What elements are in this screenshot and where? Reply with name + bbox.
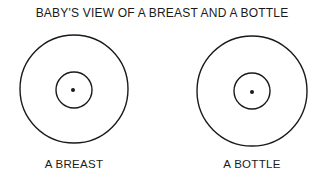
breast-figure [20, 35, 128, 143]
bottle-figure [197, 36, 307, 146]
bottle-center-dot [250, 90, 254, 94]
breast-label: A BREAST [14, 158, 134, 170]
breast-center-dot [71, 88, 75, 92]
bottle-label: A BOTTLE [192, 158, 312, 170]
